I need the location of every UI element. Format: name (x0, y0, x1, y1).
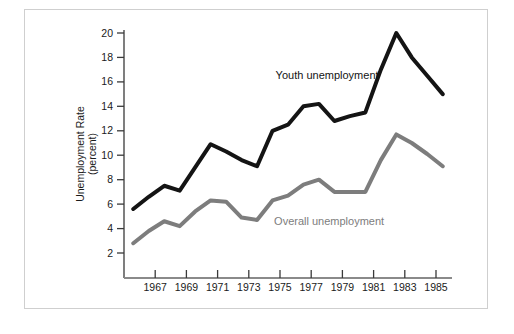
y-tick-8: 8 (107, 173, 124, 185)
y-axis-ticks: 20 18 16 14 12 10 8 6 4 2 (101, 27, 124, 259)
y-tick-18: 18 (101, 51, 124, 63)
y-tick-label: 6 (107, 198, 113, 210)
y-tick-16: 16 (101, 75, 124, 87)
x-tick-1977: 1977 (300, 270, 324, 293)
chart-figure: 20 18 16 14 12 10 8 6 4 2 1967 (0, 0, 514, 334)
y-tick-2: 2 (107, 247, 124, 259)
line-chart-plot: 20 18 16 14 12 10 8 6 4 2 1967 (0, 0, 514, 334)
x-tick-1967: 1967 (144, 270, 168, 293)
x-tick-label: 1973 (237, 281, 261, 293)
x-tick-label: 1979 (331, 281, 355, 293)
series-line-youth-unemployment (133, 33, 442, 209)
y-axis-title: Unemployment Rate (percent) (74, 106, 98, 202)
x-tick-label: 1967 (144, 281, 168, 293)
x-tick-label: 1975 (268, 281, 292, 293)
x-tick-1979: 1979 (331, 270, 355, 293)
y-axis-title-line2: (percent) (86, 133, 98, 175)
x-tick-1983: 1983 (393, 270, 417, 293)
y-tick-label: 12 (101, 124, 113, 136)
series-annotation-youth-unemployment: Youth unemployment (276, 69, 379, 81)
y-tick-label: 14 (101, 100, 113, 112)
y-tick-14: 14 (101, 100, 124, 112)
x-tick-label: 1985 (424, 281, 448, 293)
x-tick-1975: 1975 (268, 270, 292, 293)
x-tick-label: 1981 (362, 281, 386, 293)
x-tick-label: 1983 (393, 281, 417, 293)
series-annotation-overall-unemployment: Overall unemployment (274, 215, 384, 227)
x-axis-ticks: 1967 1969 1971 1973 1975 1977 1979 1981 … (144, 270, 448, 293)
y-tick-label: 10 (101, 149, 113, 161)
x-tick-label: 1969 (175, 281, 199, 293)
y-tick-12: 12 (101, 124, 124, 136)
y-axis-title-line1: Unemployment Rate (74, 106, 86, 202)
y-tick-6: 6 (107, 198, 124, 210)
x-tick-1971: 1971 (206, 270, 230, 293)
x-tick-1969: 1969 (175, 270, 199, 293)
y-tick-label: 2 (107, 247, 113, 259)
y-tick-label: 20 (101, 27, 113, 39)
y-tick-4: 4 (107, 222, 124, 234)
y-tick-label: 8 (107, 173, 113, 185)
x-tick-label: 1977 (300, 281, 324, 293)
series-group (133, 33, 442, 243)
y-tick-label: 16 (101, 75, 113, 87)
x-tick-1973: 1973 (237, 270, 261, 293)
x-tick-1981: 1981 (362, 270, 386, 293)
y-tick-label: 18 (101, 51, 113, 63)
y-tick-20: 20 (101, 27, 124, 39)
y-tick-10: 10 (101, 149, 124, 161)
x-tick-1985: 1985 (424, 270, 448, 293)
x-tick-label: 1971 (206, 281, 230, 293)
y-tick-label: 4 (107, 222, 113, 234)
